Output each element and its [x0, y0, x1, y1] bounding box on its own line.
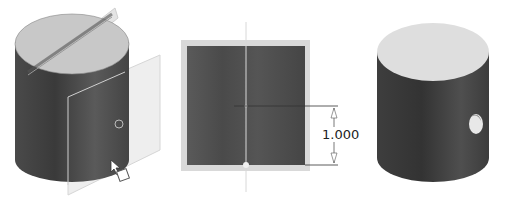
dimension-value[interactable]: 1.000 [321, 127, 360, 142]
arrow-up-icon [331, 108, 337, 118]
cylinder-with-workplane-graphic [0, 0, 170, 199]
panel-result-view [370, 0, 508, 199]
cylinder-with-hole-graphic [370, 0, 508, 199]
sketch-graphic [170, 0, 340, 199]
panel-sketch-plane-view [0, 0, 170, 199]
hole-feature[interactable] [469, 114, 483, 134]
cylinder-top-face[interactable] [377, 23, 489, 81]
cylinder-top-face[interactable] [15, 14, 129, 74]
origin-point [243, 162, 249, 168]
arrow-down-icon [331, 153, 337, 163]
panel-sketch-view [170, 0, 340, 199]
